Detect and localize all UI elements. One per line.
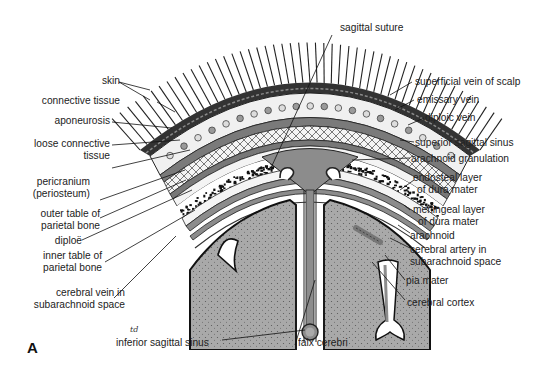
label-line: inner table of: [10, 250, 102, 262]
label-line: (periosteum): [10, 188, 90, 200]
label-line: outer table of: [10, 208, 100, 220]
label-line: tissue: [20, 150, 110, 162]
label-line: parietal bone: [10, 220, 100, 232]
label-diploe: diploë: [30, 235, 82, 247]
label-line: pericranium: [10, 176, 90, 188]
label-falx-cerebri: falx cerebri: [298, 337, 348, 349]
label-line: of dura mater: [413, 216, 485, 228]
label-emissary-vein: emissary vein: [417, 94, 479, 106]
label-skin: skin: [70, 75, 120, 87]
label-arachnoid-granulation: arachnoid granulation: [411, 153, 509, 165]
left-hemisphere: [190, 200, 296, 350]
panel-label: A: [27, 339, 38, 356]
label-cerebral-cortex: cerebral cortex: [407, 297, 474, 309]
label-diploic-vein: diploic vein: [425, 112, 475, 124]
label-inner-table: inner table of parietal bone: [10, 250, 102, 273]
label-line: parietal bone: [10, 262, 102, 274]
label-line: meningeal layer: [413, 204, 485, 216]
label-superficial-vein: superficial vein of scalp: [415, 76, 520, 88]
label-line: cerebral artery in: [410, 244, 501, 256]
label-outer-table: outer table of parietal bone: [10, 208, 100, 231]
label-line: of dura mater: [413, 184, 482, 196]
label-endosteal-layer: endosteal layer of dura mater: [413, 172, 482, 195]
label-loose-connective-tissue: loose connective tissue: [20, 138, 110, 161]
label-pericranium: pericranium (periosteum): [10, 176, 90, 199]
label-line: subarachnoid space: [410, 256, 501, 268]
label-aponeurosis: aponeurosis: [30, 115, 110, 127]
label-line: subarachnoid space: [10, 299, 125, 311]
label-inferior-sagittal-sinus: inferior sagittal sinus: [116, 337, 209, 349]
label-pia-mater: pia mater: [406, 275, 448, 287]
label-meningeal-layer: meningeal layer of dura mater: [413, 204, 485, 227]
label-connective-tissue: connective tissue: [20, 95, 120, 107]
label-superior-sagittal-sinus: superior sagittal sinus: [415, 137, 514, 149]
label-sagittal-suture: sagittal suture: [340, 22, 403, 34]
label-cerebral-vein: cerebral vein in subarachnoid space: [10, 287, 125, 310]
label-cerebral-artery: cerebral artery in subarachnoid space: [410, 244, 501, 267]
label-line: endosteal layer: [413, 172, 482, 184]
label-arachnoid: arachnoid: [410, 230, 455, 242]
label-line: loose connective: [20, 138, 110, 150]
scalp-meninges-diagram: skin connective tissue aponeurosis loose…: [0, 0, 548, 368]
artist-signature: td: [130, 325, 138, 334]
label-line: cerebral vein in: [10, 287, 125, 299]
